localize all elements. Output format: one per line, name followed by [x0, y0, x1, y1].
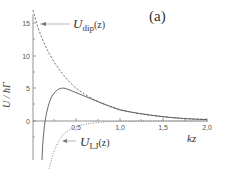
ulj-label: ULJ(z): [80, 134, 110, 151]
y-tick-15: 15: [22, 20, 30, 27]
x-axis-label: kz: [187, 132, 197, 144]
x-tick-1.5: 1,5: [158, 124, 168, 131]
ulj-arrowhead-icon: [62, 139, 67, 143]
chart: 15 10 5 0 0,5 1,0 1,5 2,0 Udip(z) ULJ(z)…: [0, 0, 227, 169]
y-tick-0: 0: [26, 118, 30, 125]
y-tick-5: 5: [26, 85, 30, 92]
x-tick-0.5: 0,5: [71, 124, 81, 131]
udip-curve: [33, 10, 207, 120]
y-tick-10: 10: [22, 53, 30, 60]
x-tick-2.0: 2,0: [202, 124, 212, 131]
panel-label: (a): [149, 8, 166, 25]
y-ticks: [33, 23, 36, 137]
x-tick-1.0: 1,0: [115, 124, 125, 131]
y-axis-label: U / ħΓ: [1, 82, 12, 108]
udip-arrowhead-icon: [40, 22, 46, 26]
udip-label: Udip(z): [73, 16, 105, 33]
